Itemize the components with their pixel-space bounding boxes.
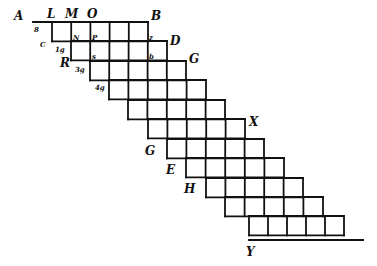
point-label: 4g: [95, 83, 105, 92]
point-label: G: [189, 52, 199, 66]
point-label: R: [59, 56, 70, 70]
point-label: E: [165, 163, 176, 177]
point-label: b: [149, 52, 154, 61]
point-label: Y: [246, 245, 256, 259]
point-label: P: [91, 33, 98, 42]
point-label: 1g: [55, 45, 65, 54]
point-label: B: [150, 9, 161, 23]
point-label: N: [72, 33, 80, 42]
point-label: s: [92, 52, 96, 61]
point-label: M: [64, 7, 79, 21]
point-label: H: [183, 182, 196, 196]
point-label: O: [87, 7, 98, 21]
point-label: D: [169, 34, 181, 48]
point-label: C: [40, 40, 46, 49]
point-label: X: [248, 115, 259, 129]
point-label: 8: [34, 25, 39, 34]
point-label: L: [46, 7, 55, 21]
staircase-grid-diagram: ALMOBDGXGEHYRC81g3g4gNPszb: [0, 0, 377, 266]
point-label: A: [13, 9, 23, 23]
point-labels: ALMOBDGXGEHYRC81g3g4gNPszb: [13, 7, 259, 259]
point-label: G: [145, 144, 155, 158]
point-label: 3g: [75, 65, 85, 74]
